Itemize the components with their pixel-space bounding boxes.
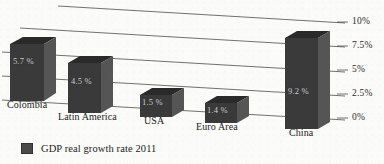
y-axis-tick-label-10pct: 10% [352,16,370,26]
y-axis-tick-label-7p5pct: 7.5% [352,40,373,50]
bar-latin-america-front [68,63,101,113]
bar-value-label-colombia: 5.7 % [13,56,34,66]
chart-legend: GDP real growth rate 2011 [21,143,156,154]
category-label-china: China [289,127,313,138]
axis-tick-marks [337,22,348,118]
gdp-growth-bar-chart: 10% 7.5% 5% 2.5% 0% 5.7 % 4.5 % 1.5 % 1.… [0,0,384,164]
legend-entry-label: GDP real growth rate 2011 [41,143,156,154]
category-label-colombia: Colombia [7,99,47,110]
y-axis-tick-label-0pct: 0% [352,112,365,122]
category-label-latin-america: Latin America [58,111,117,122]
bar-colombia-front [10,44,44,101]
category-label-usa: USA [144,115,164,126]
y-axis-tick-label-2p5pct: 2.5% [352,88,373,98]
bar-value-label-usa: 1.5 % [142,97,163,107]
bar-china-front [285,38,318,129]
bar-china-side [318,31,330,129]
chart-plot-area [0,0,384,164]
gridline-10pct [58,6,345,23]
bar-value-label-china: 9.2 % [288,86,309,96]
legend-color-swatch [21,143,33,154]
bar-colombia-side [44,37,56,101]
bar-value-label-euro-area: 1.4 % [207,105,228,115]
bar-china [285,31,330,129]
y-axis-tick-label-5pct: 5% [352,64,365,74]
bar-latin-america-side [101,56,113,113]
category-label-euro-area: Euro Area [196,121,238,132]
bar-colombia [10,37,56,101]
bar-value-label-latin-america: 4.5 % [71,76,92,86]
